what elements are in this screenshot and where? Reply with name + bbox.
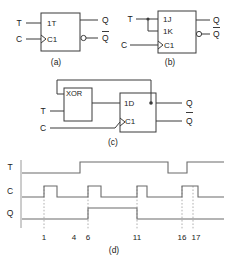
timing-wave-q bbox=[22, 208, 224, 219]
panel-d: T C Q 1 4 6 11 16 17 (d) bbox=[7, 160, 224, 255]
panel-a-caption: (a) bbox=[51, 57, 62, 67]
panel-b-pin-1j: 1J bbox=[163, 15, 171, 24]
timing-tick-4: 4 bbox=[72, 233, 77, 242]
panel-a-inversion-bubble bbox=[81, 35, 86, 40]
panel-b-junction-dot bbox=[146, 17, 149, 20]
figure-root: T C 1T C1 Q Q (a) T C 1J 1K C1 bbox=[0, 0, 228, 258]
panel-b-pin-1k: 1K bbox=[163, 27, 173, 36]
panel-b-inversion-bubble bbox=[196, 31, 201, 36]
timing-tick-17: 17 bbox=[192, 233, 201, 242]
panel-a-input-c-label: C bbox=[16, 34, 22, 44]
panel-a: T C 1T C1 Q Q (a) bbox=[16, 13, 109, 67]
panel-a-input-t-label: T bbox=[16, 18, 21, 28]
panel-b-output-qbar-label: Q bbox=[213, 29, 220, 39]
panel-c-input-t-label: T bbox=[40, 106, 45, 116]
panel-b-caption: (b) bbox=[165, 57, 176, 67]
timing-label-q: Q bbox=[7, 208, 14, 218]
panel-a-output-qbar-label: Q bbox=[102, 33, 109, 43]
panel-b-input-t-label: T bbox=[127, 14, 132, 24]
panel-a-output-q-label: Q bbox=[102, 15, 109, 25]
timing-wave-c bbox=[22, 186, 224, 197]
panel-a-pin-c1: C1 bbox=[47, 35, 58, 44]
panel-b-input-c-label: C bbox=[121, 40, 127, 50]
panel-b-dynamic-input-icon bbox=[158, 41, 163, 49]
panel-b: T C 1J 1K C1 Q Q (b) bbox=[121, 11, 220, 67]
timing-wave-t bbox=[22, 162, 224, 173]
panel-c-c-wire-rise bbox=[115, 122, 120, 128]
panel-c-output-qbar-label: Q bbox=[186, 116, 193, 126]
panel-a-pin-1t: 1T bbox=[47, 19, 56, 28]
panel-a-dynamic-input-icon bbox=[41, 35, 46, 43]
timing-label-c: C bbox=[7, 186, 13, 196]
panel-c-junction-dot bbox=[149, 101, 153, 105]
panel-c-pin-c1: C1 bbox=[125, 117, 136, 126]
panel-d-caption: (d) bbox=[109, 245, 120, 255]
timing-tick-6: 6 bbox=[86, 233, 91, 242]
figure-svg: T C 1T C1 Q Q (a) T C 1J 1K C1 bbox=[0, 0, 228, 258]
panel-c-caption: (c) bbox=[108, 137, 118, 147]
panel-b-output-q-label: Q bbox=[213, 15, 220, 25]
panel-c: XOR 1D C1 T C Q Q (c) bbox=[40, 80, 193, 147]
timing-tick-16: 16 bbox=[178, 233, 187, 242]
panel-c-xor-label: XOR bbox=[66, 89, 83, 98]
panel-c-input-c-label: C bbox=[40, 123, 46, 133]
panel-c-pin-1d: 1D bbox=[124, 99, 134, 108]
timing-label-t: T bbox=[7, 162, 12, 172]
timing-tick-11: 11 bbox=[133, 233, 142, 242]
timing-tick-1: 1 bbox=[42, 233, 47, 242]
panel-c-output-q-label: Q bbox=[186, 98, 193, 108]
panel-b-pin-c1: C1 bbox=[164, 41, 175, 50]
